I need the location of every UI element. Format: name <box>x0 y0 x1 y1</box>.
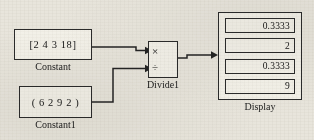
display-value: 2 <box>285 41 290 51</box>
display-value: 0.3333 <box>263 61 290 71</box>
display-cell: 0.3333 <box>225 59 295 74</box>
divide-to-display-wire <box>178 51 218 58</box>
diagram-canvas: [2 4 3 18] Constant ( 6 2 9 2 ) Constant… <box>0 0 314 140</box>
constant1-value: ( 6 2 9 2 ) <box>32 97 80 108</box>
display-value: 0.3333 <box>263 21 290 31</box>
constant-block-label: Constant <box>14 61 92 72</box>
constant-to-divide-wire <box>92 47 152 54</box>
constant-value: [2 4 3 18] <box>29 39 76 50</box>
multiply-icon: × <box>152 46 158 57</box>
divide-block[interactable]: × ÷ <box>148 41 178 78</box>
divide-block-label: Divide1 <box>133 79 193 90</box>
display-block-label: Display <box>218 101 302 112</box>
constant1-block[interactable]: ( 6 2 9 2 ) <box>19 86 92 118</box>
constant-block[interactable]: [2 4 3 18] <box>14 29 92 60</box>
divide-icon: ÷ <box>152 62 158 73</box>
display-cell: 0.3333 <box>225 18 295 33</box>
constant1-block-label: Constant1 <box>19 119 92 130</box>
display-block[interactable]: 0.3333 2 0.3333 9 <box>218 12 302 100</box>
display-cell: 2 <box>225 38 295 53</box>
display-value: 9 <box>285 81 290 91</box>
display-cell: 9 <box>225 79 295 94</box>
